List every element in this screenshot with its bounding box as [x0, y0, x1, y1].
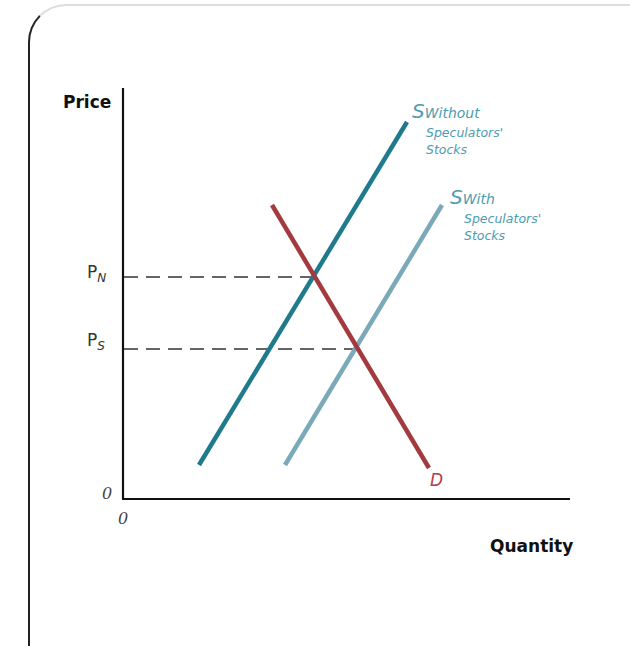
supply-with-label: SWith Speculators' Stocks — [450, 184, 541, 245]
ps-sub: S — [97, 339, 105, 353]
supply-with-curve — [285, 205, 442, 465]
demand-curve — [272, 205, 429, 468]
pn-sub: N — [97, 271, 106, 285]
demand-label: D — [430, 470, 443, 490]
s2-subscript: With — [463, 191, 495, 207]
s1-symbol: S — [412, 99, 425, 123]
s1-line3: Stocks — [412, 142, 503, 159]
s2-symbol: S — [450, 185, 463, 209]
s1-subscript: Without — [425, 105, 480, 121]
pn-label: PN — [87, 262, 106, 285]
ps-main: P — [87, 330, 97, 350]
y-axis-title: Price — [63, 92, 111, 112]
pn-main: P — [87, 262, 97, 282]
ps-label: PS — [87, 330, 105, 353]
s2-line2: Speculators' — [450, 211, 541, 228]
supply-without-curve — [199, 122, 407, 465]
x-axis-title: Quantity — [490, 536, 573, 556]
s1-line2: Speculators' — [412, 125, 503, 142]
y-origin-label: 0 — [102, 484, 112, 503]
s2-line3: Stocks — [450, 228, 541, 245]
supply-without-label: SWithout Speculators' Stocks — [412, 98, 503, 159]
x-origin-label: 0 — [118, 509, 128, 528]
